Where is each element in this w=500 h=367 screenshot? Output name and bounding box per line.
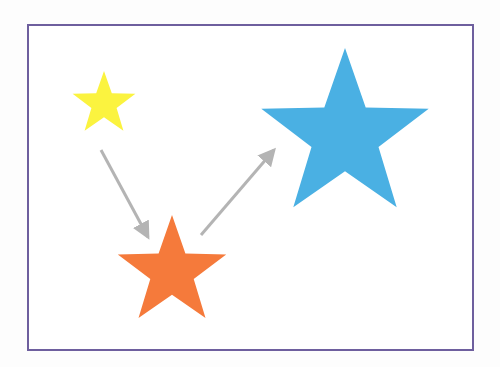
- small-yellow-star-icon: [73, 71, 136, 131]
- diagram-canvas: [0, 0, 500, 367]
- large-blue-star-icon: [261, 48, 428, 207]
- arrow-yellow-to-orange-icon: [101, 150, 148, 237]
- medium-orange-star-icon: [118, 215, 226, 318]
- arrow-orange-to-blue-icon: [201, 150, 274, 235]
